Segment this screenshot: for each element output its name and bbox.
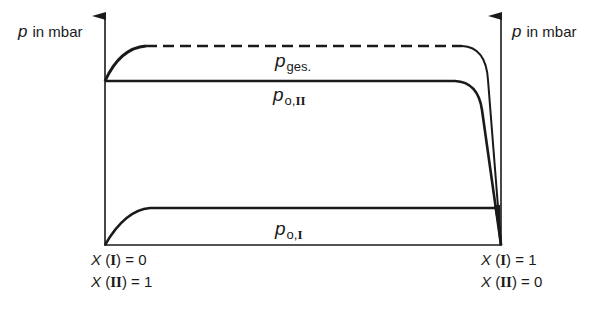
p-ges-symbol: p bbox=[275, 50, 286, 71]
x-comp: I bbox=[500, 252, 506, 268]
x-comp: I bbox=[110, 252, 116, 268]
x-eq: = 1 bbox=[127, 273, 152, 290]
x-var: X bbox=[481, 251, 491, 268]
curve-label-p-o-II: po,II bbox=[273, 84, 306, 109]
x-label-right-II: X (II) = 0 bbox=[481, 271, 542, 293]
left-x-labels: X (I) = 0 X (II) = 1 bbox=[91, 249, 152, 293]
x-comp: II bbox=[500, 274, 512, 290]
x-var: X bbox=[481, 273, 491, 290]
x-eq: = 0 bbox=[121, 251, 146, 268]
curve-label-p-ges: pges. bbox=[275, 50, 311, 74]
curve-p-ges-rise bbox=[105, 46, 146, 81]
p-o-I-subscript-prefix: o, bbox=[287, 227, 298, 242]
x-label-left-I: X (I) = 0 bbox=[91, 249, 152, 271]
x-var: X bbox=[91, 273, 101, 290]
left-axis-unit: in mbar bbox=[32, 23, 82, 40]
p-o-I-subscript-roman: I bbox=[297, 227, 302, 242]
vapor-pressure-diagram: pin mbar pin mbar pges. po,II po,I X (I)… bbox=[0, 0, 608, 317]
x-var: X bbox=[91, 251, 101, 268]
curve-label-p-o-I: po,I bbox=[275, 218, 302, 243]
x-eq: = 0 bbox=[517, 273, 542, 290]
right-axis-symbol: p bbox=[512, 22, 521, 41]
left-axis-symbol: p bbox=[18, 22, 27, 41]
right-axis-unit: in mbar bbox=[526, 23, 576, 40]
curve-p-ges-descent bbox=[462, 46, 501, 245]
x-label-left-II: X (II) = 1 bbox=[91, 271, 152, 293]
p-o-II-symbol: p bbox=[273, 84, 284, 105]
x-eq: = 1 bbox=[511, 251, 536, 268]
p-o-II-subscript-prefix: o, bbox=[285, 93, 296, 108]
p-ges-subscript: ges. bbox=[287, 59, 312, 74]
right-axis-label: pin mbar bbox=[512, 22, 577, 42]
p-o-I-symbol: p bbox=[275, 218, 286, 239]
p-o-II-subscript-roman: II bbox=[295, 93, 305, 108]
right-x-labels: X (I) = 1 X (II) = 0 bbox=[481, 249, 542, 293]
curve-p-o-I bbox=[105, 208, 501, 245]
x-comp: II bbox=[110, 274, 122, 290]
left-axis-label: pin mbar bbox=[18, 22, 83, 42]
x-label-right-I: X (I) = 1 bbox=[481, 249, 542, 271]
